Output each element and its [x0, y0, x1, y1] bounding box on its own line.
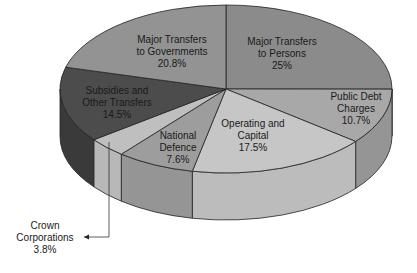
- slice-label-line: Corporations: [16, 232, 73, 243]
- pie-chart-svg: Major Transfersto Persons25%Public DebtC…: [0, 0, 417, 273]
- slice-label-line: National: [160, 130, 197, 141]
- slice-percent: 3.8%: [34, 244, 57, 255]
- slice-label-line: Defence: [159, 142, 197, 153]
- slice-label-line: Public Debt: [330, 91, 381, 102]
- slice-label-line: Charges: [337, 103, 375, 114]
- callout-arrow-icon: [84, 235, 89, 240]
- slice-percent: 10.7%: [342, 115, 370, 126]
- slice-label-line: Other Transfers: [82, 97, 151, 108]
- slice-label-line: to Persons: [258, 48, 306, 59]
- slice-label-line: Subsidies and: [86, 85, 149, 96]
- slice-percent: 7.6%: [167, 154, 190, 165]
- slice-label-line: Major Transfers: [247, 36, 316, 47]
- slice-label-line: to Governments: [136, 46, 207, 57]
- slice-major-transfers-to-persons[interactable]: [226, 5, 392, 89]
- slice-label-line: Capital: [237, 130, 268, 141]
- slice-label-line: Major Transfers: [137, 34, 206, 45]
- slice-percent: 17.5%: [239, 142, 267, 153]
- slice-percent: 25%: [272, 60, 292, 71]
- slice-label-crown-corporations: CrownCorporations3.8%: [16, 220, 73, 255]
- pie-chart: Major Transfersto Persons25%Public DebtC…: [0, 0, 417, 273]
- slice-percent: 14.5%: [103, 109, 131, 120]
- slice-percent: 20.8%: [158, 58, 186, 69]
- slice-label-line: Crown: [31, 220, 60, 231]
- slice-label-line: Operating and: [221, 118, 284, 129]
